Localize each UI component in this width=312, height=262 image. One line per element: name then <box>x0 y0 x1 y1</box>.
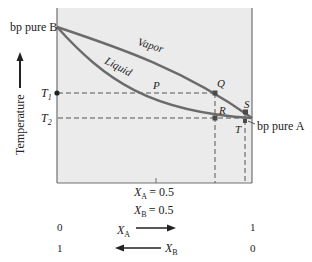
s-point <box>243 110 248 115</box>
p-label: P <box>152 79 160 91</box>
phase-diagram: Vapor Liquid P Q R S T bp pure B bp pure… <box>0 0 312 262</box>
s-label: S <box>244 98 250 110</box>
xa-axis-label: XA <box>116 223 130 239</box>
t1-point <box>54 90 59 95</box>
xa-left-value: 0 <box>57 221 63 233</box>
xb-half-label: XB= 0.5 <box>133 203 173 219</box>
t-label: T <box>235 123 242 135</box>
xa-arrow-icon <box>167 225 176 232</box>
q-label: Q <box>217 77 225 89</box>
q-point <box>213 91 218 96</box>
r-point <box>213 116 218 121</box>
temperature-axis-label: Temperature <box>13 95 27 155</box>
bp-pure-b-label: bp pure B <box>10 20 57 34</box>
t1-label: T1 <box>41 86 52 102</box>
plot-area <box>57 8 252 183</box>
temperature-arrow-icon <box>17 52 24 61</box>
r-label: R <box>218 104 226 116</box>
bp-pure-a-label: bp pure A <box>257 119 305 133</box>
t-point <box>243 119 247 123</box>
xb-axis-label: XB <box>164 241 178 257</box>
xa-half-label: XA= 0.5 <box>133 185 174 201</box>
xb-arrow-icon <box>115 245 124 252</box>
xb-right-value: 0 <box>250 242 256 254</box>
xb-left-value: 1 <box>57 242 63 254</box>
t2-label: T2 <box>41 111 52 127</box>
xa-right-value: 1 <box>250 221 256 233</box>
